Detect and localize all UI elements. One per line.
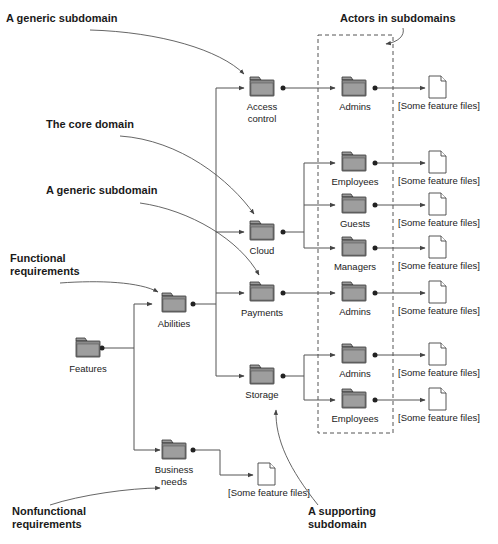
svg-text:needs: needs [161,476,187,487]
svg-text:Admins: Admins [339,101,371,112]
file-icon [429,76,446,98]
file-guests-cloud: [Some feature files] [398,193,480,228]
callout-supporting-subdomain: A supporting subdomain [276,410,376,530]
svg-text:Managers: Managers [334,261,376,272]
svg-text:Employees: Employees [332,176,379,187]
svg-text:A generic subdomain: A generic subdomain [46,184,158,196]
folder-icon [250,221,274,240]
file-admins-storage: [Some feature files] [398,343,480,378]
svg-text:[Some feature files]: [Some feature files] [398,217,480,228]
svg-text:Admins: Admins [339,306,371,317]
folder-icon [342,389,366,408]
svg-text:Functional: Functional [10,252,66,264]
folder-icon [342,344,366,363]
file-employees-storage: [Some feature files] [398,388,480,423]
svg-text:Features: Features [69,363,107,374]
folder-icon [250,282,274,301]
svg-text:Cloud: Cloud [250,245,275,256]
svg-text:[Some feature files]: [Some feature files] [398,412,480,423]
svg-text:The core domain: The core domain [46,118,134,130]
svg-text:Actors in subdomains: Actors in subdomains [340,12,456,24]
folder-icon [342,152,366,171]
svg-text:Guests: Guests [340,218,370,229]
callout-generic-subdomain-1: A generic subdomain [6,12,244,74]
file-icon [429,151,446,173]
folder-storage: Storage [245,365,278,400]
folder-cloud: Cloud [250,221,275,256]
file-admins-access: [Some feature files] [398,76,480,111]
svg-text:Access: Access [247,101,278,112]
svg-text:[Some feature files]: [Some feature files] [398,100,480,111]
file-managers-cloud: [Some feature files] [398,236,480,271]
svg-text:A supporting: A supporting [308,505,376,517]
file-employees-cloud: [Some feature files] [398,151,480,186]
callout-functional-requirements: Functional requirements [10,252,158,292]
file-admins-payments: [Some feature files] [398,281,480,316]
folder-abilities: Abilities [158,293,191,329]
folder-icon [342,194,366,213]
folder-payments: Payments [241,282,283,318]
folder-employees-cloud: Employees [332,152,379,187]
folder-guests-cloud: Guests [340,194,370,229]
folder-icon [342,282,366,301]
folder-icon [162,293,186,312]
svg-text:subdomain: subdomain [308,518,367,530]
folder-features: Features [69,338,107,374]
file-icon [429,388,446,410]
folder-admins-access-control: Admins [339,77,371,112]
folder-icon [342,77,366,96]
svg-text:Admins: Admins [339,368,371,379]
svg-text:Employees: Employees [332,413,379,424]
callout-nonfunctional-requirements: Nonfunctional requirements [12,488,160,530]
svg-text:[Some feature files]: [Some feature files] [398,367,480,378]
svg-text:Abilities: Abilities [158,318,191,329]
svg-text:Payments: Payments [241,307,283,318]
file-icon [429,236,446,258]
folder-icon [250,77,274,96]
svg-text:control: control [248,113,277,124]
file-icon [258,463,275,485]
file-business-needs: [Some feature files] [228,463,310,498]
svg-text:[Some feature files]: [Some feature files] [398,305,480,316]
callout-core-domain: The core domain [46,118,254,214]
folder-icon [250,365,274,384]
svg-text:Nonfunctional: Nonfunctional [12,505,86,517]
features-hierarchy-diagram: Features Abilities Business needs Access… [0,0,498,544]
folder-icon [342,237,366,256]
folder-managers-cloud: Managers [334,237,376,272]
folder-employees-storage: Employees [332,389,379,424]
svg-text:A generic subdomain: A generic subdomain [6,12,118,24]
svg-text:[Some feature files]: [Some feature files] [398,175,480,186]
file-icon [429,281,446,303]
file-icon [429,193,446,215]
svg-text:[Some feature files]: [Some feature files] [228,487,310,498]
folder-access-control: Access control [247,77,278,124]
svg-text:[Some feature files]: [Some feature files] [398,260,480,271]
callout-generic-subdomain-2: A generic subdomain [46,184,259,275]
svg-text:requirements: requirements [12,518,82,530]
folder-icon [162,440,186,459]
svg-text:Business: Business [155,464,194,475]
folder-admins-storage: Admins [339,344,371,379]
callout-actors-in-subdomains: Actors in subdomains [340,12,456,44]
svg-text:requirements: requirements [10,265,80,277]
folder-admins-payments: Admins [339,282,371,317]
folder-icon [76,338,100,357]
file-icon [429,343,446,365]
folder-business-needs: Business needs [155,440,194,487]
svg-text:Storage: Storage [245,389,278,400]
